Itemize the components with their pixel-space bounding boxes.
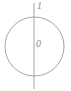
circle-outline: [5, 17, 64, 76]
label-top-one: 1: [37, 1, 42, 11]
label-center-zero: 0: [36, 39, 41, 49]
figure-container: 1 0: [0, 0, 71, 91]
